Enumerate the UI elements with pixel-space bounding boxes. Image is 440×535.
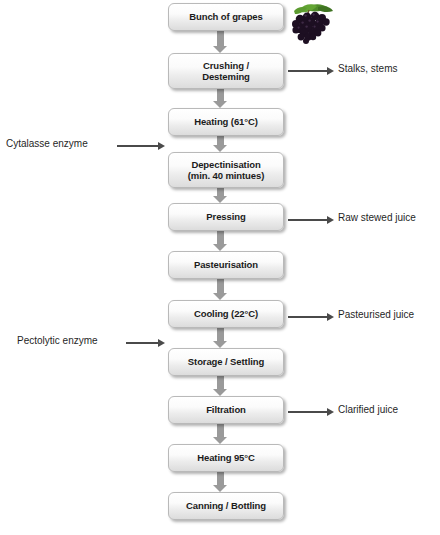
arrow-line — [288, 219, 327, 221]
arrow-head — [158, 142, 165, 150]
process-step-label: Pasteurisation — [194, 259, 258, 271]
flow-connector-arrow — [213, 279, 227, 300]
process-step-bunch-of-grapes[interactable]: Bunch of grapes — [168, 3, 284, 31]
process-step-label: Heating 95°C — [197, 452, 255, 464]
process-step-label: Bunch of grapes — [189, 11, 262, 23]
arrow-head — [327, 313, 334, 321]
arrow-line — [288, 70, 327, 72]
flow-connector-arrow — [213, 89, 227, 108]
input-arrow-cytalasse-enzyme — [117, 141, 165, 151]
process-step-label: Storage / Settling — [188, 356, 264, 368]
process-step-canning-bottling[interactable]: Canning / Bottling — [168, 492, 284, 520]
connector-stem — [217, 328, 224, 341]
flow-connector-arrow — [213, 328, 227, 348]
process-step-label: Cooling (22°C) — [194, 308, 258, 320]
connector-arrowhead — [213, 389, 227, 396]
process-step-label-line1: Filtration — [206, 404, 246, 415]
arrow-line — [288, 316, 327, 318]
process-step-label-line1: Heating 95°C — [197, 452, 255, 463]
connector-stem — [217, 31, 224, 46]
connector-stem — [217, 279, 224, 293]
connector-arrowhead — [213, 101, 227, 108]
arrow-line — [117, 145, 158, 147]
flow-connector-arrow — [213, 188, 227, 203]
input-label-pectolytic-enzyme: Pectolytic enzyme — [17, 335, 98, 346]
process-step-pasteurisation[interactable]: Pasteurisation — [168, 251, 284, 279]
process-step-label-line1: Cooling (22°C) — [194, 308, 258, 319]
arrow-head — [158, 339, 165, 347]
process-step-label-line1: Canning / Bottling — [186, 500, 266, 511]
input-arrow-pectolytic-enzyme — [126, 338, 165, 348]
output-arrow-pasteurised-juice — [288, 312, 334, 322]
process-step-label-line1: Crushing / — [203, 60, 249, 71]
flow-connector-arrow — [213, 231, 227, 251]
output-arrow-clarified-juice — [288, 407, 334, 417]
process-step-label-line2: Desteming — [202, 71, 250, 83]
process-step-label: Heating (61°C) — [194, 116, 258, 128]
output-label-stalks-stems: Stalks, stems — [338, 63, 397, 74]
process-step-label-line2: (min. 40 mintues) — [188, 170, 264, 182]
output-label-raw-stewed-juice: Raw stewed juice — [338, 212, 416, 223]
connector-arrowhead — [213, 437, 227, 444]
connector-stem — [217, 231, 224, 244]
connector-arrowhead — [213, 341, 227, 348]
flow-connector-arrow — [213, 136, 227, 152]
process-step-crushing-destemming[interactable]: Crushing /Desteming — [168, 53, 284, 89]
arrow-head — [327, 408, 334, 416]
connector-stem — [217, 188, 224, 196]
connector-arrowhead — [213, 145, 227, 152]
arrow-line — [126, 342, 158, 344]
connector-stem — [217, 424, 224, 437]
input-label-cytalasse-enzyme: Cytalasse enzyme — [6, 138, 88, 149]
process-step-cooling-22[interactable]: Cooling (22°C) — [168, 300, 284, 328]
connector-stem — [217, 472, 224, 485]
process-step-depectinisation[interactable]: Depectinisation(min. 40 mintues) — [168, 152, 284, 188]
process-step-heating-95[interactable]: Heating 95°C — [168, 444, 284, 472]
output-arrow-stalks-stems — [288, 66, 334, 76]
output-arrow-raw-stewed-juice — [288, 215, 334, 225]
connector-arrowhead — [213, 46, 227, 53]
process-step-label-line1: Bunch of grapes — [189, 11, 262, 22]
connector-arrowhead — [213, 485, 227, 492]
process-step-label-line1: Pasteurisation — [194, 259, 258, 270]
flow-connector-arrow — [213, 424, 227, 444]
flowchart-canvas: Bunch of grapesCrushing /DestemingHeatin… — [0, 0, 440, 535]
arrow-head — [327, 216, 334, 224]
process-step-label-line1: Pressing — [206, 211, 245, 222]
connector-stem — [217, 89, 224, 101]
flow-connector-arrow — [213, 472, 227, 492]
process-step-label-line1: Depectinisation — [191, 159, 260, 170]
grape-cluster-icon — [276, 2, 336, 48]
process-step-label: Pressing — [206, 211, 245, 223]
process-step-heating-61[interactable]: Heating (61°C) — [168, 108, 284, 136]
connector-stem — [217, 376, 224, 389]
arrow-head — [327, 67, 334, 75]
output-label-clarified-juice: Clarified juice — [338, 404, 398, 415]
output-label-pasteurised-juice: Pasteurised juice — [338, 309, 414, 320]
process-step-label-line1: Heating (61°C) — [194, 116, 258, 127]
flow-connector-arrow — [213, 376, 227, 396]
process-step-label: Depectinisation(min. 40 mintues) — [188, 159, 264, 182]
connector-arrowhead — [213, 244, 227, 251]
connector-arrowhead — [213, 293, 227, 300]
connector-stem — [217, 136, 224, 145]
process-step-label: Canning / Bottling — [186, 500, 266, 512]
process-step-pressing[interactable]: Pressing — [168, 203, 284, 231]
process-step-storage-settling[interactable]: Storage / Settling — [168, 348, 284, 376]
process-step-filtration[interactable]: Filtration — [168, 396, 284, 424]
connector-arrowhead — [213, 196, 227, 203]
arrow-line — [288, 411, 327, 413]
process-step-label: Crushing /Desteming — [202, 60, 250, 83]
flow-connector-arrow — [213, 31, 227, 53]
process-step-label-line1: Storage / Settling — [188, 356, 264, 367]
process-step-label: Filtration — [206, 404, 246, 416]
